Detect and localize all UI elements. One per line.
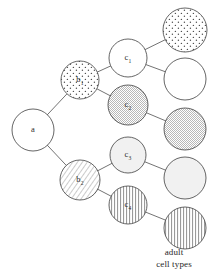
lineage-tree-svg: ab1b2c1c2c3c4 bbox=[0, 0, 217, 273]
node-terminal-1[interactable] bbox=[163, 8, 207, 52]
node-terminal-1-circle[interactable] bbox=[163, 8, 207, 52]
edge-b2-c3 bbox=[98, 163, 112, 170]
edge-c1-t1 bbox=[145, 40, 165, 50]
edge-c4-t5 bbox=[146, 212, 166, 220]
edge-a-b2 bbox=[47, 145, 66, 165]
node-b2[interactable]: b2 bbox=[60, 160, 100, 200]
cell-lineage-diagram: ab1b2c1c2c3c4 adult cell types bbox=[0, 0, 217, 273]
edge-b1-c2 bbox=[97, 89, 110, 96]
node-layer: ab1b2c1c2c3c4 bbox=[12, 8, 207, 249]
node-terminal-3[interactable] bbox=[164, 108, 206, 150]
node-terminal-4[interactable] bbox=[164, 157, 206, 199]
adult-cell-types-caption: adult cell types bbox=[137, 247, 211, 270]
node-terminal-5-circle[interactable] bbox=[164, 207, 206, 249]
edge-c2-t3 bbox=[146, 113, 165, 121]
edge-b1-c1 bbox=[97, 66, 110, 72]
node-terminal-4-circle[interactable] bbox=[164, 157, 206, 199]
node-terminal-3-circle[interactable] bbox=[164, 108, 206, 150]
node-terminal-2-circle[interactable] bbox=[164, 58, 206, 100]
node-terminal-2[interactable] bbox=[164, 58, 206, 100]
edge-c1-t2 bbox=[146, 65, 165, 72]
node-c3[interactable]: c3 bbox=[110, 137, 146, 173]
node-c2[interactable]: c2 bbox=[108, 85, 148, 125]
node-terminal-5[interactable] bbox=[164, 207, 206, 249]
node-c4[interactable]: c4 bbox=[109, 186, 147, 224]
caption-line-1: adult bbox=[137, 247, 211, 259]
node-a-label: a bbox=[31, 124, 35, 134]
node-a[interactable]: a bbox=[12, 109, 54, 151]
node-c1[interactable]: c1 bbox=[109, 39, 147, 77]
node-b1[interactable]: b1 bbox=[61, 61, 99, 99]
edge-c3-t4 bbox=[145, 162, 166, 170]
edge-b2-c4 bbox=[98, 189, 111, 196]
edge-a-b1 bbox=[47, 94, 67, 115]
caption-line-2: cell types bbox=[137, 259, 211, 271]
